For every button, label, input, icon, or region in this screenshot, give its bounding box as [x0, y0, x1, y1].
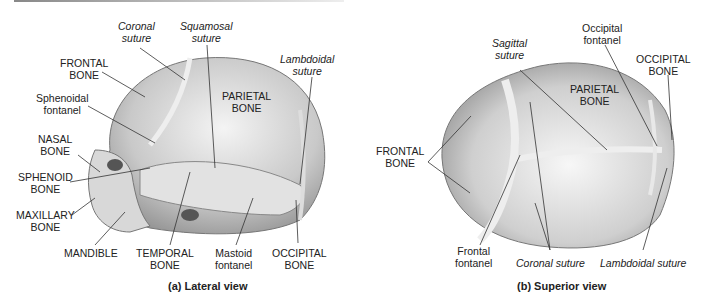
- label-coronal-suture: Coronalsuture: [118, 20, 155, 44]
- label-squamosal-suture: Squamosalsuture: [180, 20, 233, 44]
- caption-lateral-view: (a) Lateral view: [168, 280, 247, 292]
- label-maxillary-bone: MAXILLARYBONE: [16, 209, 75, 233]
- label-occipital-bone: OCCIPITALBONE: [272, 247, 327, 271]
- label-mastoid-fontanel: Mastoidfontanel: [215, 247, 252, 271]
- label-sphenoidal-fontanel: Sphenoidalfontanel: [36, 92, 89, 116]
- label-frontal-fontanel: Frontalfontanel: [455, 245, 492, 269]
- label-coronal-suture-superior: Coronal suture: [516, 257, 585, 269]
- label-occipital-fontanel: Occipitalfontanel: [582, 22, 622, 46]
- label-mandible: MANDIBLE: [64, 247, 118, 259]
- lateral-skull: [88, 58, 324, 234]
- label-frontal-bone: FRONTALBONE: [60, 57, 108, 81]
- label-parietal-bone-superior: PARIETALBONE: [570, 83, 619, 107]
- label-parietal-bone: PARIETALBONE: [222, 90, 271, 114]
- label-nasal-bone: NASALBONE: [38, 133, 72, 157]
- superior-skull: [442, 63, 674, 248]
- label-sphenoid-bone: SPHENOIDBONE: [18, 171, 73, 195]
- label-sagittal-suture: Sagittalsuture: [492, 37, 527, 61]
- label-temporal-bone: TEMPORALBONE: [136, 247, 194, 271]
- caption-superior-view: (b) Superior view: [517, 280, 606, 292]
- label-lambdoidal-suture-superior: Lambdoidal suture: [600, 257, 686, 269]
- label-lambdoidal-suture: Lambdoidalsuture: [280, 53, 334, 77]
- label-occipital-bone-superior: OCCIPITALBONE: [636, 53, 691, 77]
- label-frontal-bone-superior: FRONTALBONE: [376, 145, 424, 169]
